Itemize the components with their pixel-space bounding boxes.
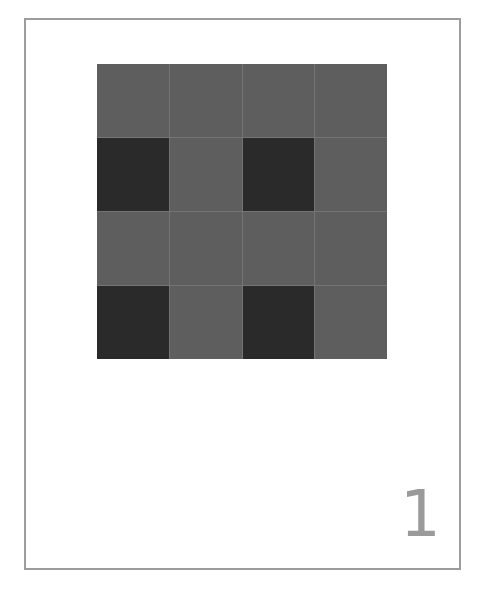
grid-cell-gray bbox=[97, 212, 169, 285]
grid-cell-dark bbox=[97, 286, 169, 359]
grid-cell-gray bbox=[170, 286, 242, 359]
grid-cell-gray bbox=[315, 286, 387, 359]
grid-cell-dark bbox=[243, 138, 315, 211]
grid-cell-gray bbox=[315, 212, 387, 285]
page-number: 1 bbox=[400, 476, 440, 552]
grid-cell-gray bbox=[315, 64, 387, 137]
grid-cell-gray bbox=[243, 64, 315, 137]
grid-cell-gray bbox=[315, 138, 387, 211]
pattern-grid bbox=[97, 64, 387, 359]
grid-cell-gray bbox=[170, 212, 242, 285]
grid-cell-gray bbox=[170, 138, 242, 211]
grid-cell-gray bbox=[97, 64, 169, 137]
grid-cell-gray bbox=[170, 64, 242, 137]
grid-cell-gray bbox=[243, 212, 315, 285]
grid-cell-dark bbox=[97, 138, 169, 211]
grid-cell-dark bbox=[243, 286, 315, 359]
